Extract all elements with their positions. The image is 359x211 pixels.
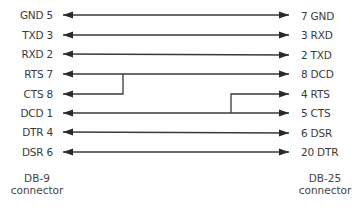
db25-pin-label: 6 DSR <box>301 127 332 139</box>
db9-pin-label: GND 5 <box>20 9 53 21</box>
db25-pin-label: 5 CTS <box>301 107 330 119</box>
wire-dtr-dsr <box>63 132 289 133</box>
db9-pin-label: DTR 4 <box>22 126 53 138</box>
bridge-rts-cts-db9 <box>63 74 123 94</box>
bridge-rts-cts-db25 <box>231 94 289 113</box>
db25-pin-label: 4 RTS <box>301 88 330 100</box>
db25-pin-label: 20 DTR <box>301 146 338 158</box>
db9-pin-label: DCD 1 <box>20 107 53 119</box>
db25-name: DB-25 <box>292 172 358 184</box>
db9-pin-label: TXD 3 <box>22 29 53 41</box>
db9-pin-label: RXD 2 <box>21 48 53 60</box>
db9-name: DB-9 <box>2 172 72 184</box>
db25-caption: DB-25 connector <box>292 172 358 196</box>
db9-pin-label: DSR 6 <box>22 146 53 158</box>
db9-pin-label: CTS 8 <box>24 88 53 100</box>
db9-subtitle: connector <box>2 184 72 196</box>
wire-rxd-txd <box>63 54 289 55</box>
db25-pin-label: 7 GND <box>301 10 334 22</box>
db25-pin-label: 8 DCD <box>301 68 334 80</box>
db25-pin-label: 2 TXD <box>301 49 332 61</box>
db25-pin-label: 3 RXD <box>301 29 333 41</box>
db9-caption: DB-9 connector <box>2 172 72 196</box>
null-modem-cable-diagram: GND 5 TXD 3 RXD 2 RTS 7 CTS 8 DCD 1 DTR … <box>0 0 359 211</box>
db9-pin-label: RTS 7 <box>24 68 53 80</box>
db25-subtitle: connector <box>292 184 358 196</box>
